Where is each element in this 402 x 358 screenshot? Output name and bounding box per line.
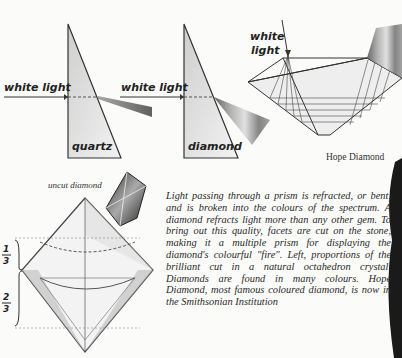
uncut-diamond-caption: uncut diamond <box>48 180 102 190</box>
diamond-prism-diagram: white light diamond <box>120 24 270 158</box>
svg-text:light: light <box>251 44 280 57</box>
svg-text:white: white <box>250 30 285 43</box>
svg-text:white light: white light <box>4 81 72 94</box>
svg-text:2: 2 <box>3 292 9 302</box>
hope-diamond-caption: Hope Diamond <box>326 152 384 162</box>
svg-text:3: 3 <box>3 304 9 314</box>
svg-text:quartz: quartz <box>72 140 113 153</box>
svg-text:1: 1 <box>3 244 9 254</box>
svg-text:diamond: diamond <box>188 140 242 153</box>
svg-text:white light: white light <box>121 81 189 94</box>
uncut-diamond-image <box>106 172 146 226</box>
svg-text:3: 3 <box>3 256 9 266</box>
hope-diamond-diagram: white light <box>248 20 402 135</box>
body-paragraph: Light passing through a prism is refract… <box>166 190 391 308</box>
